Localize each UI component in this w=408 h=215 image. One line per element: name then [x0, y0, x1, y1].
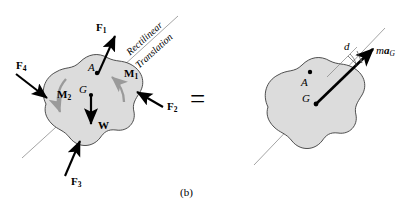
label-m2: M2	[57, 89, 71, 102]
label-weight: W	[98, 120, 109, 131]
label-mag: maG	[376, 44, 395, 58]
label-f1: F1	[96, 22, 106, 35]
figure-caption: (b)	[180, 186, 193, 198]
point-g-marker-left	[89, 93, 93, 97]
label-point-a-left: A	[88, 62, 95, 73]
point-a-marker-right	[308, 70, 312, 74]
label-point-g-right: G	[302, 93, 310, 104]
label-f2: F2	[167, 101, 177, 114]
point-a-marker-left	[95, 71, 99, 75]
figure-container: F1 F2 F3 F4 W M1 M2 A G Rectilinear Tran…	[0, 0, 408, 215]
label-m1: M1	[124, 68, 138, 81]
label-point-g-left: G	[79, 84, 87, 95]
point-g-marker-right	[314, 102, 319, 107]
label-dimension-d: d	[344, 41, 350, 52]
label-point-a-right: A	[301, 77, 308, 88]
label-f3: F3	[71, 176, 81, 189]
label-f4: F4	[16, 60, 26, 73]
equals-sign: =	[190, 84, 205, 115]
force-arrow-f2	[137, 92, 163, 107]
force-arrow-f3	[65, 141, 80, 176]
force-arrow-f4	[16, 74, 47, 98]
